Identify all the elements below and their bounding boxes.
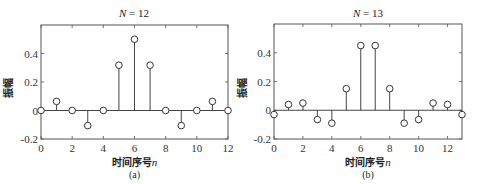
stem-marker [116, 62, 123, 69]
stem-marker [415, 116, 422, 123]
x-tick-label: 12 [223, 142, 234, 154]
stem-marker [131, 36, 138, 43]
stem-marker [53, 98, 60, 105]
x-tick-label: 4 [101, 142, 107, 154]
axes-box [274, 24, 462, 139]
x-axis-label: 时间序号n [112, 156, 158, 168]
stem-plot-a: 024681012-0.200.20.4N = 12时间序号n振幅(a) [2, 7, 234, 181]
stem-marker [372, 42, 379, 49]
x-tick-label: 6 [358, 142, 364, 154]
stem-marker [225, 107, 232, 114]
x-axis-label: 时间序号n [345, 156, 391, 168]
y-tick-label: 0.4 [24, 48, 38, 60]
subfigure-caption: (a) [129, 169, 140, 181]
stem-marker [194, 107, 201, 114]
stem-marker [459, 111, 466, 118]
x-tick-label: 12 [442, 142, 453, 154]
y-axis-label: 振幅 [2, 78, 14, 98]
y-tick-label: -0.2 [254, 133, 271, 145]
stem-marker [100, 107, 107, 114]
stem-marker [162, 107, 169, 114]
y-tick-label: 0.2 [257, 76, 271, 88]
x-tick-label: 8 [387, 142, 393, 154]
stem-marker [329, 120, 336, 127]
stem-marker [343, 85, 350, 92]
stem-marker [147, 62, 154, 69]
x-tick-label: 2 [300, 142, 306, 154]
x-tick-label: 4 [329, 142, 335, 154]
subfigure-caption: (b) [362, 169, 374, 181]
x-tick-label: 6 [132, 142, 138, 154]
stem-marker [401, 120, 408, 127]
stem-marker [209, 98, 216, 105]
x-tick-label: 2 [69, 142, 75, 154]
figure-canvas: 024681012-0.200.20.4N = 12时间序号n振幅(a)0246… [0, 0, 477, 184]
stem-marker [38, 107, 45, 114]
stem-marker [178, 122, 185, 129]
stem-marker [386, 85, 393, 92]
stem-marker [314, 116, 321, 123]
y-axis-label: 振幅 [236, 78, 248, 98]
x-tick-label: 8 [163, 142, 169, 154]
stem-marker [300, 100, 307, 107]
x-tick-label: 0 [38, 142, 44, 154]
stem-plot-b: 024681012-0.200.20.4N = 13时间序号n振幅(b) [236, 7, 465, 181]
chart-title: N = 12 [118, 7, 149, 19]
y-tick-label: 0.4 [257, 47, 271, 59]
stem-marker [69, 107, 76, 114]
x-tick-label: 0 [271, 142, 277, 154]
stem-marker [444, 101, 451, 108]
y-tick-label: -0.2 [21, 133, 38, 145]
stem-marker [285, 101, 292, 108]
stem-marker [271, 111, 278, 118]
y-tick-label: 0.2 [24, 76, 38, 88]
stem-marker [357, 42, 364, 49]
x-tick-label: 10 [413, 142, 425, 154]
stem-marker [430, 100, 437, 107]
stem-marker [84, 122, 91, 129]
x-tick-label: 10 [191, 142, 203, 154]
chart-title: N = 13 [352, 7, 384, 19]
